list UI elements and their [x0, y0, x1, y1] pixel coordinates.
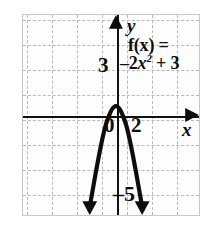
x-axis-label: x [182, 120, 192, 139]
graph-figure: y x 3 0 2 –5 f(x) = –2x2 + 3 [0, 0, 220, 230]
y-intercept-label: 3 [98, 55, 109, 76]
origin-label: 0 [104, 115, 115, 136]
curve-arrow-right-icon [135, 201, 150, 215]
y-tick-label-neg5: –5 [113, 183, 135, 205]
equation-constant: + 3 [156, 53, 179, 73]
y-axis-label: y [127, 16, 135, 35]
equation-line-1: f(x) = [128, 36, 220, 54]
function-equation-annotation: f(x) = –2x2 + 3 [128, 36, 220, 72]
equation-coefficient: –2 [120, 53, 138, 73]
equation-exponent: 2 [146, 52, 151, 64]
curve-arrow-left-icon [82, 201, 97, 215]
y-axis-arrow-icon [109, 15, 123, 29]
equation-line-2: –2x2 + 3 [120, 54, 220, 72]
x-tick-label-2: 2 [131, 115, 142, 136]
